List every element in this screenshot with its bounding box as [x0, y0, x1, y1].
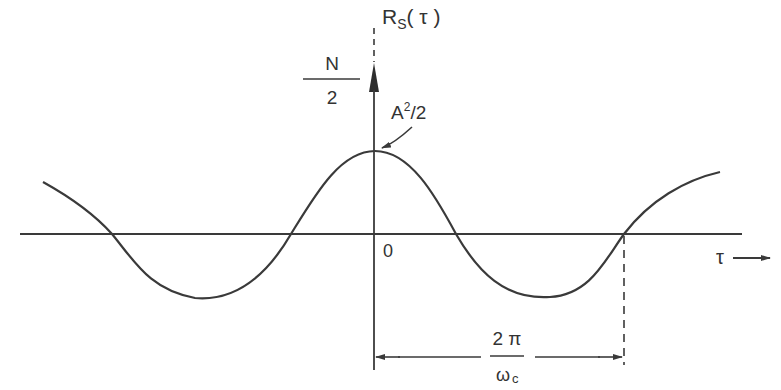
period-label-denominator: ωc — [496, 365, 519, 386]
impulse-label-numerator: N — [325, 53, 339, 74]
autocorrelation-curve — [43, 151, 720, 298]
impulse-arrow-icon — [369, 63, 379, 92]
period-label-numerator: 2 π — [493, 328, 522, 349]
tau-axis-label: τ — [716, 246, 724, 268]
origin-label: 0 — [383, 241, 393, 261]
peak-pointer-arrow — [382, 127, 412, 148]
impulse-label-denominator: 2 — [327, 87, 338, 108]
autocorrelation-diagram: RS( τ ) N 2 A2/2 0 τ 2 π ωc — [0, 0, 781, 390]
y-axis-label: RS( τ ) — [382, 5, 440, 32]
peak-label: A2/2 — [391, 100, 426, 123]
